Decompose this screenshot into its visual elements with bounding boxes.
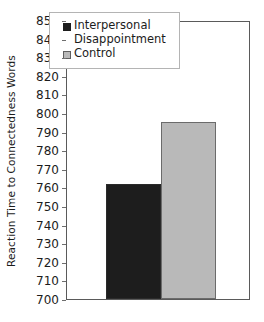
y-axis-tick-mark <box>62 207 66 208</box>
y-axis-tick-label: 780 <box>36 145 59 157</box>
bar-interpersonal-disappointment <box>106 184 161 299</box>
y-axis-tick-mark <box>62 188 66 189</box>
legend-entry: Interpersonal Disappointment <box>63 19 177 46</box>
y-axis-title: Reaction Time to Connectedness Words <box>5 55 17 267</box>
y-axis-tick-mark <box>62 226 66 227</box>
legend-items: Interpersonal DisappointmentControl <box>63 19 177 62</box>
y-axis-tick-label: 810 <box>36 89 59 101</box>
legend-label: Interpersonal Disappointment <box>74 19 166 46</box>
y-axis-tick-mark <box>62 133 66 134</box>
y-axis-tick-mark <box>62 95 66 96</box>
y-axis-tick-label: 750 <box>36 201 59 213</box>
legend-entry: Control <box>63 47 177 61</box>
y-axis-tick-mark <box>62 244 66 245</box>
y-axis-tick-label: 730 <box>36 238 59 250</box>
y-axis-tick-label: 720 <box>36 257 59 269</box>
y-axis-tick-mark <box>62 77 66 78</box>
y-axis-tick-label: 710 <box>36 275 59 287</box>
bar-control <box>161 122 216 299</box>
y-axis-tick-label: 790 <box>36 127 59 139</box>
y-axis-tick-label: 760 <box>36 182 59 194</box>
legend-label: Control <box>74 47 116 61</box>
y-axis-title-container: Reaction Time to Connectedness Words <box>0 0 22 322</box>
y-axis-tick-mark <box>62 300 66 301</box>
y-axis-tick-label: 800 <box>36 108 59 120</box>
filled-square-icon <box>63 23 71 31</box>
y-axis-tick-label: 740 <box>36 220 59 232</box>
y-axis-tick-mark <box>62 21 66 22</box>
y-axis-tick-label: 770 <box>36 164 59 176</box>
y-axis-tick-mark <box>62 170 66 171</box>
y-axis-tick-mark <box>62 281 66 282</box>
chart-legend: Interpersonal DisappointmentControl <box>49 12 180 69</box>
y-axis-tick-label: 820 <box>36 71 59 83</box>
y-axis-tick-mark <box>62 40 66 41</box>
y-axis-tick-mark <box>62 151 66 152</box>
y-axis-tick-mark <box>62 114 66 115</box>
y-axis-tick-label: 700 <box>36 294 59 306</box>
bar-chart: Reaction Time to Connectedness Words 700… <box>0 0 264 322</box>
y-axis-tick-mark <box>62 263 66 264</box>
y-axis-tick-mark <box>62 58 66 59</box>
